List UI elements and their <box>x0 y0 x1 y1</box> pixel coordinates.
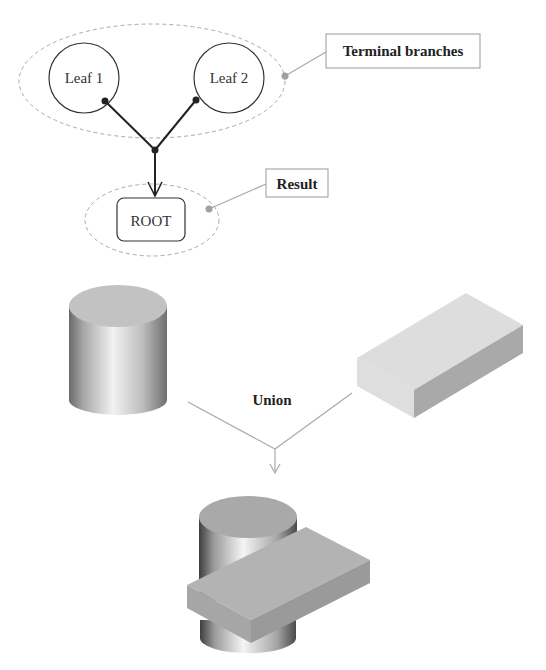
terminal-branches-label: Terminal branches <box>343 43 464 59</box>
branch-edges <box>102 97 200 197</box>
result-group: ROOT <box>85 184 219 256</box>
union-operator: Union <box>188 392 352 473</box>
terminal-branches-group: Leaf 1 Leaf 2 <box>19 24 285 138</box>
result-callout: Result <box>206 169 329 213</box>
result-label: Result <box>277 176 318 192</box>
root-label: ROOT <box>131 213 172 229</box>
box-solid <box>357 293 523 418</box>
diagram-canvas: Leaf 1 Leaf 2 ROOT Terminal branches Res… <box>0 0 546 670</box>
terminal-branches-callout: Terminal branches <box>282 34 481 80</box>
cylinder-solid <box>69 285 167 415</box>
leaf-2-connector-dot <box>193 97 200 104</box>
callout-dot <box>282 73 289 80</box>
leaf-1-label: Leaf 1 <box>65 70 104 86</box>
leaf-1-connector-dot <box>102 98 109 105</box>
leaf-2-label: Leaf 2 <box>210 70 249 86</box>
union-result-solid <box>187 496 370 653</box>
callout-dot <box>206 206 213 213</box>
union-label: Union <box>252 392 292 408</box>
